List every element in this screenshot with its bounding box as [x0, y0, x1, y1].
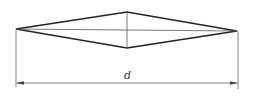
dimension-label-d: d — [124, 70, 131, 81]
horizontal-diagonal — [16, 29, 237, 31]
rhombus-diagram — [0, 0, 254, 98]
right-arrowhead-icon — [230, 81, 238, 84]
left-arrowhead-icon — [16, 81, 24, 84]
